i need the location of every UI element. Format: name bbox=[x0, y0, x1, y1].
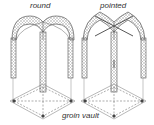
round-column-right bbox=[68, 38, 73, 78]
pointed-vault bbox=[81, 12, 146, 119]
round-column-center bbox=[40, 32, 46, 92]
pointed-base-nodes bbox=[83, 99, 144, 118]
round-vault bbox=[10, 16, 75, 119]
round-column-left bbox=[11, 38, 16, 78]
round-base-nodes bbox=[12, 99, 73, 118]
pointed-column-left bbox=[82, 38, 87, 78]
groin-vault-illustration bbox=[0, 0, 154, 125]
pointed-column-right bbox=[141, 38, 146, 78]
